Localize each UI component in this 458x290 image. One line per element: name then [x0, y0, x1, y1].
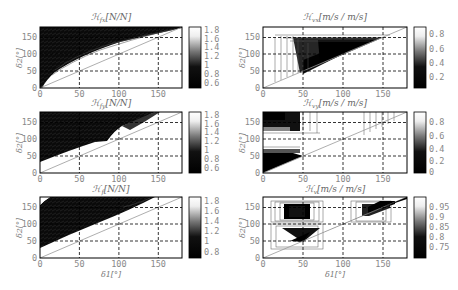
svg-text:100: 100 — [111, 259, 126, 269]
svg-text:0.8: 0.8 — [429, 117, 444, 127]
colorbar — [189, 197, 201, 258]
svg-text:150: 150 — [151, 259, 166, 269]
panel-top-left: ℋfx[N/N] 0 50 100 150 0 50 100 150 δ2[°]… — [15, 12, 219, 99]
svg-text:1.8: 1.8 — [204, 196, 219, 206]
svg-text:50: 50 — [27, 151, 37, 161]
svg-text:0.2: 0.2 — [429, 72, 444, 82]
panel-title: ℋfy[N/N] — [91, 98, 132, 110]
svg-text:δ2[°]: δ2[°] — [15, 217, 24, 238]
svg-text:0.8: 0.8 — [429, 29, 444, 39]
svg-text:50: 50 — [74, 259, 84, 269]
svg-text:0: 0 — [32, 83, 37, 93]
panel-middle-right: ℋvy[m/s / m/s] 0 50 100 150 0 50 100 150… — [238, 98, 444, 184]
svg-text:150: 150 — [22, 32, 37, 42]
svg-text:50: 50 — [27, 236, 37, 246]
svg-text:100: 100 — [335, 259, 350, 269]
panel-title: ℋf[N/N] — [92, 184, 130, 196]
svg-text:0: 0 — [255, 83, 260, 93]
colorbar-ticks: 1.8 1.6 1.4 1.2 1 0.8 — [204, 196, 219, 257]
svg-text:0.8: 0.8 — [429, 232, 444, 242]
svg-text:1: 1 — [204, 236, 209, 246]
svg-text:0: 0 — [255, 253, 260, 263]
svg-text:150: 150 — [245, 32, 260, 42]
svg-text:100: 100 — [335, 174, 350, 184]
colorbar — [189, 27, 201, 88]
svg-text:100: 100 — [111, 174, 126, 184]
svg-text:150: 150 — [151, 89, 166, 99]
svg-text:δ1[°]: δ1[°] — [101, 270, 122, 279]
svg-text:1.4: 1.4 — [204, 216, 219, 226]
panel-bottom-right: ℋv[m/s / m/s] 0 50 100 150 0 50 100 150 … — [238, 184, 449, 279]
svg-text:δ2[°]: δ2[°] — [238, 47, 247, 68]
colorbar-ticks: 0.95 0.9 0.85 0.8 0.75 — [429, 202, 449, 252]
colorbar — [414, 112, 426, 173]
svg-text:50: 50 — [74, 174, 84, 184]
svg-text:δ2[°]: δ2[°] — [238, 217, 247, 238]
svg-text:150: 150 — [151, 174, 166, 184]
svg-text:0.6: 0.6 — [204, 163, 219, 173]
svg-text:0: 0 — [260, 259, 265, 269]
svg-text:150: 150 — [245, 117, 260, 127]
svg-text:0.85: 0.85 — [429, 222, 449, 232]
svg-text:δ1[°]: δ1[°] — [325, 270, 346, 279]
svg-text:150: 150 — [375, 174, 390, 184]
svg-text:0: 0 — [37, 259, 42, 269]
svg-text:0: 0 — [260, 89, 265, 99]
svg-text:0: 0 — [255, 168, 260, 178]
svg-text:150: 150 — [375, 89, 390, 99]
panel-title: ℋv[m/s / m/s] — [305, 184, 366, 195]
panel-bottom-left: ℋf[N/N] 0 50 100 150 0 50 100 150 δ1[°] … — [15, 184, 219, 279]
svg-text:δ2[°]: δ2[°] — [238, 132, 247, 153]
svg-text:0.4: 0.4 — [429, 144, 444, 154]
colorbar — [189, 112, 201, 173]
svg-text:0.6: 0.6 — [204, 78, 219, 88]
svg-text:50: 50 — [250, 236, 260, 246]
svg-text:δ2[°]: δ2[°] — [15, 47, 24, 68]
svg-text:0: 0 — [37, 174, 42, 184]
svg-text:0.95: 0.95 — [429, 202, 449, 212]
panel-title: ℋfx[N/N] — [91, 12, 132, 24]
panel-title: ℋvx[m/s / m/s] — [303, 12, 367, 23]
svg-text:150: 150 — [245, 202, 260, 212]
svg-text:0: 0 — [429, 167, 434, 177]
svg-text:0: 0 — [260, 174, 265, 184]
svg-text:0.6: 0.6 — [429, 131, 444, 141]
svg-text:0: 0 — [32, 253, 37, 263]
colorbar — [414, 197, 426, 258]
svg-text:50: 50 — [298, 259, 308, 269]
figure: ℋfx[N/N] 0 50 100 150 0 50 100 150 δ2[°]… — [0, 0, 458, 290]
svg-text:1.2: 1.2 — [204, 226, 219, 236]
svg-text:150: 150 — [22, 117, 37, 127]
colorbar-ticks: 0.8 0.6 0.4 0.2 — [429, 29, 444, 82]
svg-text:0.4: 0.4 — [429, 58, 444, 68]
svg-text:δ2[°]: δ2[°] — [15, 132, 24, 153]
svg-text:50: 50 — [298, 174, 308, 184]
colorbar-ticks: 0.8 0.6 0.4 0.2 0 — [429, 117, 444, 177]
svg-text:50: 50 — [27, 66, 37, 76]
svg-text:0.9: 0.9 — [429, 212, 444, 222]
svg-text:0: 0 — [32, 168, 37, 178]
svg-text:50: 50 — [250, 151, 260, 161]
svg-text:0.75: 0.75 — [429, 242, 449, 252]
panel-top-right: ℋvx[m/s / m/s] 0 50 100 150 0 50 100 150… — [238, 12, 444, 99]
svg-text:50: 50 — [250, 66, 260, 76]
svg-text:150: 150 — [22, 202, 37, 212]
colorbar — [414, 27, 426, 88]
svg-text:0: 0 — [37, 89, 42, 99]
panel-title: ℋvy[m/s / m/s] — [303, 98, 367, 110]
svg-text:0.8: 0.8 — [204, 247, 219, 257]
colorbar-ticks: 1.8 1.6 1.4 1.2 1 0.8 0.6 — [204, 110, 219, 173]
panel-middle-left: ℋfy[N/N] 0 50 100 150 0 50 100 150 δ2[°]… — [15, 98, 219, 184]
svg-text:1.6: 1.6 — [204, 206, 219, 216]
svg-text:150: 150 — [375, 259, 390, 269]
svg-text:0.6: 0.6 — [429, 44, 444, 54]
svg-text:50: 50 — [74, 89, 84, 99]
svg-text:0.2: 0.2 — [429, 156, 444, 166]
colorbar-ticks: 1.8 1.6 1.4 1.2 1 0.8 0.6 — [204, 25, 219, 88]
